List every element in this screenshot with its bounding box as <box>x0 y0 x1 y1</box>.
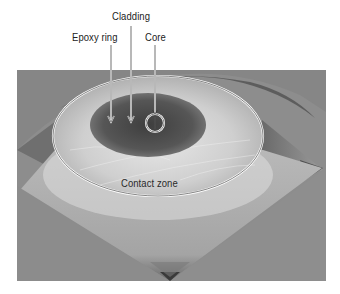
core-label: Core <box>145 31 166 43</box>
epoxy-ring-label: Epoxy ring <box>72 31 118 43</box>
cladding-region <box>90 93 206 157</box>
fiber-endface-figure: Cladding Epoxy ring Core Contact zone <box>0 0 340 294</box>
surface-render <box>0 0 340 294</box>
cladding-label: Cladding <box>112 10 150 22</box>
contact-zone-label: Contact zone <box>121 177 178 189</box>
